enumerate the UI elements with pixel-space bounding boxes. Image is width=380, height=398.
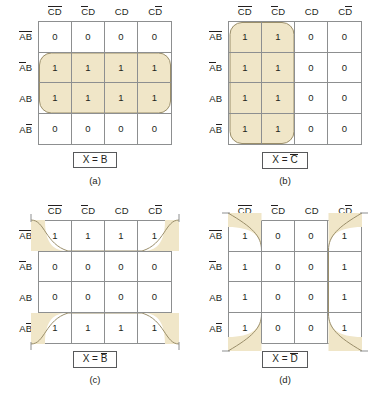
- kmap-c-grid-wrap: 1 1 1 1 0 0 0 0 0 0 0 0 1 1 1 1: [38, 220, 172, 344]
- kmap-d-row-headers: AB AB AB AB: [192, 220, 226, 344]
- kmap-cell: 0: [295, 252, 328, 283]
- kmap-a-grid-wrap: 0 0 0 0 1 1 1 1 1 1 1 1 0 0 0 0: [38, 21, 172, 145]
- kmap-cell: 1: [229, 252, 262, 283]
- kmap-cell: 1: [105, 221, 138, 252]
- row-header: AB: [2, 220, 36, 251]
- column-header: CD: [38, 202, 72, 219]
- kmap-cell: 0: [138, 114, 171, 145]
- row-header: AB: [192, 83, 226, 114]
- column-header: CD: [262, 202, 296, 219]
- column-header: CD: [228, 202, 262, 219]
- kmap-cell: 1: [262, 22, 295, 53]
- kmap-cell: 0: [105, 282, 138, 313]
- kmap-b-result: X = C: [190, 152, 380, 169]
- kmap-cell: 1: [138, 313, 171, 344]
- kmap-cell: 1: [39, 221, 72, 252]
- kmap-a-caption: (a): [0, 175, 190, 186]
- kmap-cell: 1: [39, 313, 72, 344]
- kmap-cell: 0: [262, 252, 295, 283]
- kmap-cell: 1: [328, 313, 361, 344]
- kmap-a: CD CD CD CD AB AB AB AB 0 0 0 0 1 1: [0, 0, 190, 199]
- kmap-cell: 0: [39, 282, 72, 313]
- kmap-c-grid: 1 1 1 1 0 0 0 0 0 0 0 0 1 1 1 1: [38, 220, 172, 344]
- row-header: AB: [2, 52, 36, 83]
- kmap-cell: 1: [39, 83, 72, 114]
- kmap-cell: 0: [39, 252, 72, 283]
- kmap-b-column-headers: CD CD CD CD: [228, 3, 362, 20]
- row-header: AB: [2, 21, 36, 52]
- row-header: AB: [192, 313, 226, 344]
- kmap-c-result: X = B: [0, 351, 190, 368]
- kmap-cell: 0: [105, 114, 138, 145]
- kmap-cell: 1: [105, 53, 138, 84]
- column-header: CD: [105, 3, 139, 20]
- kmap-cell: 1: [72, 53, 105, 84]
- kmap-cell: 1: [262, 114, 295, 145]
- kmap-cell: 1: [138, 53, 171, 84]
- kmap-cell: 1: [262, 83, 295, 114]
- kmap-b-grid-wrap: 1 1 0 0 1 1 0 0 1 1 0 0 1 1 0 0: [228, 21, 362, 145]
- kmap-cell: 0: [295, 83, 328, 114]
- column-header: CD: [72, 202, 106, 219]
- kmap-cell: 0: [262, 313, 295, 344]
- column-header: CD: [139, 202, 173, 219]
- kmap-cell: 0: [295, 282, 328, 313]
- row-header: AB: [192, 282, 226, 313]
- kmap-c: CD CD CD CD AB AB AB AB: [0, 199, 190, 398]
- row-header: AB: [2, 313, 36, 344]
- kmap-cell: 1: [72, 83, 105, 114]
- kmap-cell: 1: [262, 53, 295, 84]
- kmap-cell: 1: [138, 221, 171, 252]
- kmap-d-grid-wrap: 1 0 0 1 1 0 0 1 1 0 0 1 1 0 0 1: [228, 220, 362, 344]
- row-header: AB: [2, 282, 36, 313]
- kmap-cell: 1: [328, 221, 361, 252]
- kmap-a-result: X = B: [0, 152, 190, 168]
- kmap-cell: 0: [138, 252, 171, 283]
- kmap-cell: 0: [328, 114, 361, 145]
- kmap-cell: 1: [105, 313, 138, 344]
- kmap-cell: 1: [328, 282, 361, 313]
- kmap-cell: 0: [295, 313, 328, 344]
- kmap-cell: 1: [72, 313, 105, 344]
- kmap-cell: 0: [262, 221, 295, 252]
- column-header: CD: [329, 3, 363, 20]
- column-header: CD: [38, 3, 72, 20]
- kmap-cell: 0: [262, 282, 295, 313]
- kmap-b-caption: (b): [190, 175, 380, 186]
- kmap-b: CD CD CD CD AB AB AB AB 1 1 0 0 1 1: [190, 0, 380, 199]
- kmap-cell: 0: [328, 22, 361, 53]
- kmap-cell: 1: [229, 83, 262, 114]
- column-header: CD: [228, 3, 262, 20]
- kmap-cell: 1: [229, 313, 262, 344]
- column-header: CD: [295, 202, 329, 219]
- kmap-figure-sheet: CD CD CD CD AB AB AB AB 0 0 0 0 1 1: [0, 0, 380, 398]
- kmap-cell: 1: [229, 22, 262, 53]
- row-header: AB: [2, 114, 36, 145]
- kmap-a-grid: 0 0 0 0 1 1 1 1 1 1 1 1 0 0 0 0: [38, 21, 172, 145]
- kmap-cell: 0: [72, 282, 105, 313]
- kmap-c-column-headers: CD CD CD CD: [38, 202, 172, 219]
- kmap-cell: 0: [72, 22, 105, 53]
- kmap-c-row-headers: AB AB AB AB: [2, 220, 36, 344]
- kmap-cell: 1: [138, 83, 171, 114]
- kmap-cell: 1: [229, 221, 262, 252]
- kmap-b-row-headers: AB AB AB AB: [192, 21, 226, 145]
- kmap-b-grid: 1 1 0 0 1 1 0 0 1 1 0 0 1 1 0 0: [228, 21, 362, 145]
- kmap-d-result: X = D: [190, 351, 380, 368]
- kmap-cell: 0: [295, 114, 328, 145]
- kmap-cell: 0: [328, 83, 361, 114]
- kmap-a-row-headers: AB AB AB AB: [2, 21, 36, 145]
- kmap-d: CD CD CD CD AB AB AB AB: [190, 199, 380, 398]
- kmap-cell: 1: [72, 221, 105, 252]
- result-expression: X = B: [73, 351, 118, 368]
- column-header: CD: [329, 202, 363, 219]
- kmap-cell: 1: [39, 53, 72, 84]
- kmap-cell: 0: [105, 22, 138, 53]
- kmap-cell: 1: [229, 282, 262, 313]
- kmap-cell: 1: [105, 83, 138, 114]
- kmap-cell: 0: [295, 221, 328, 252]
- kmap-cell: 0: [295, 53, 328, 84]
- row-header: AB: [192, 21, 226, 52]
- kmap-cell: 0: [138, 282, 171, 313]
- column-header: CD: [139, 3, 173, 20]
